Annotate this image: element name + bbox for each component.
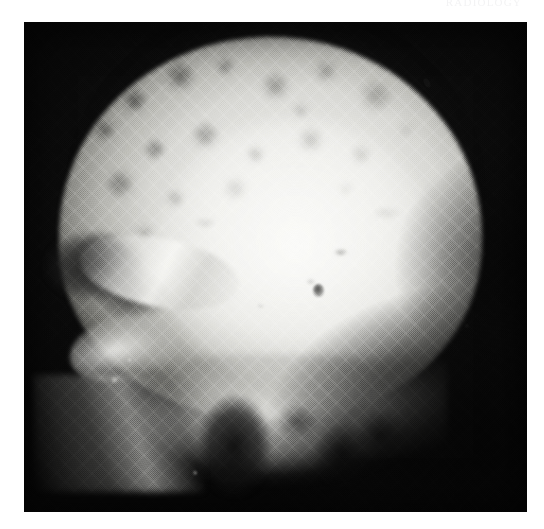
page-canvas: RADIOLOGY (0, 0, 544, 529)
cropped-running-head-ghost: RADIOLOGY (446, 0, 522, 7)
plate-vignette-layer (24, 22, 527, 512)
radiograph-plate (24, 22, 527, 512)
